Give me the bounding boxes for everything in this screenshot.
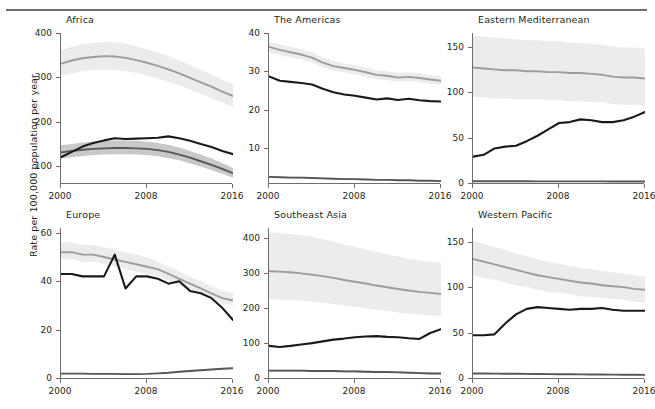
series-line-tb-case-notifications: [473, 112, 645, 157]
y-tick-label: 40: [222, 28, 260, 38]
y-tick-label: 0: [222, 373, 260, 383]
x-tick-label: 2008: [343, 191, 366, 201]
panel-title-the-americas: The Americas: [274, 14, 341, 25]
panel-title-western-pacific: Western Pacific: [478, 209, 552, 220]
y-tick-label: 40: [14, 276, 52, 286]
x-tick: [60, 379, 61, 383]
y-tick: [56, 166, 60, 167]
y-tick: [468, 92, 472, 93]
panel-europe: Europe0204060200020082016: [60, 228, 232, 404]
uncertainty-band-tb-incidence: [473, 36, 645, 106]
y-tick-label: 200: [222, 303, 260, 313]
x-tick: [472, 184, 473, 188]
y-tick: [264, 71, 268, 72]
y-tick: [56, 77, 60, 78]
y-tick: [56, 233, 60, 234]
x-tick: [146, 379, 147, 383]
y-tick: [264, 33, 268, 34]
y-tick: [468, 47, 472, 48]
x-tick-label: 2000: [461, 191, 484, 201]
y-tick: [56, 330, 60, 331]
x-tick-label: 2008: [547, 191, 570, 201]
y-tick-label: 150: [426, 237, 464, 247]
x-tick-label: 2000: [49, 191, 72, 201]
plot-area-eastern-mediterranean: [473, 33, 645, 183]
y-tick: [56, 122, 60, 123]
y-tick-label: 150: [426, 42, 464, 52]
series-line-tb-case-notifications: [473, 307, 645, 335]
y-tick-label: 10: [222, 143, 260, 153]
y-tick-label: 60: [14, 228, 52, 238]
panel-title-southeast-asia: Southeast Asia: [274, 209, 347, 220]
x-tick-label: 2016: [221, 191, 244, 201]
plot-area-southeast-asia: [269, 228, 441, 378]
x-tick: [472, 379, 473, 383]
y-tick-label: 100: [426, 282, 464, 292]
series-line-tb-case-notifications: [269, 329, 441, 347]
plot-area-western-pacific: [473, 228, 645, 378]
panel-eastern-mediterranean: Eastern Mediterranean0501001502000200820…: [472, 33, 644, 209]
x-tick-label: 2008: [135, 386, 158, 396]
panel-title-europe: Europe: [66, 209, 100, 220]
x-tick: [354, 379, 355, 383]
panel-the-americas: The Americas10203040200020082016: [268, 33, 440, 209]
x-tick-label: 2008: [547, 386, 570, 396]
x-tick: [558, 379, 559, 383]
x-tick: [558, 184, 559, 188]
uncertainty-band-tb-incidence: [269, 232, 441, 316]
y-tick-label: 50: [426, 133, 464, 143]
y-tick-label: 30: [222, 66, 260, 76]
y-tick-label: 400: [222, 233, 260, 243]
x-tick-label: 2016: [633, 191, 655, 201]
y-tick-label: 300: [222, 268, 260, 278]
uncertainty-band-tb-incidence: [473, 241, 645, 303]
y-tick-label: 0: [426, 178, 464, 188]
series-line-tb-mortality-hiv-negative: [269, 177, 441, 181]
y-tick: [264, 308, 268, 309]
x-tick: [268, 379, 269, 383]
x-tick: [644, 379, 645, 383]
x-tick: [268, 184, 269, 188]
x-tick-label: 2000: [49, 386, 72, 396]
x-tick-label: 2000: [257, 191, 280, 201]
y-tick: [56, 33, 60, 34]
y-tick: [56, 281, 60, 282]
plot-area-africa: [61, 33, 233, 183]
plot-area-the-americas: [269, 33, 441, 183]
y-tick-label: 100: [426, 87, 464, 97]
x-tick: [146, 184, 147, 188]
x-tick: [60, 184, 61, 188]
x-tick: [232, 184, 233, 188]
x-tick: [354, 184, 355, 188]
y-tick-label: 50: [426, 328, 464, 338]
y-tick: [264, 110, 268, 111]
x-tick-label: 2016: [429, 386, 452, 396]
y-tick-label: 300: [14, 72, 52, 82]
series-line-tb-mortality-hiv-negative: [473, 373, 645, 374]
y-tick-label: 400: [14, 28, 52, 38]
panel-southeast-asia: Southeast Asia0100200300400200020082016: [268, 228, 440, 404]
x-tick-label: 2008: [135, 191, 158, 201]
y-tick: [468, 287, 472, 288]
panel-title-eastern-mediterranean: Eastern Mediterranean: [478, 14, 590, 25]
panel-africa: Africa100200300400200020082016: [60, 33, 232, 209]
panel-title-africa: Africa: [66, 14, 94, 25]
series-line-tb-mortality-hiv-negative: [269, 371, 441, 374]
y-tick-label: 100: [222, 338, 260, 348]
x-tick-label: 2016: [221, 386, 244, 396]
plot-area-europe: [61, 228, 233, 378]
y-tick-label: 200: [14, 117, 52, 127]
y-tick: [264, 273, 268, 274]
y-tick: [264, 148, 268, 149]
x-tick-label: 2016: [429, 191, 452, 201]
uncertainty-band-tb-incidence: [61, 42, 233, 107]
y-tick: [468, 333, 472, 334]
y-tick: [264, 343, 268, 344]
y-tick-label: 0: [426, 373, 464, 383]
x-tick-label: 2016: [633, 386, 655, 396]
x-tick-label: 2000: [461, 386, 484, 396]
y-tick-label: 0: [14, 373, 52, 383]
top-divider-rule: [6, 9, 647, 11]
y-tick: [468, 242, 472, 243]
series-line-tb-mortality-hiv-negative: [61, 368, 233, 374]
